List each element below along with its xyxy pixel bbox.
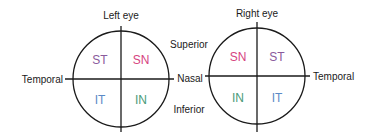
nasal-label: Nasal [177,73,203,84]
superior-label: Superior [170,39,208,50]
left-eye-quadrant-sn: SN [133,53,150,67]
left-eye-quadrant-it: IT [95,93,106,107]
right-eye-title: Right eye [236,8,279,19]
right-eye-diagram: Right eye SN ST IN IT Temporal [205,8,354,132]
right-eye-quadrant-it: IT [272,91,283,105]
right-eye-temporal-label: Temporal [313,71,354,82]
right-eye-quadrant-in: IN [232,91,244,105]
eye-quadrant-diagram: Left eye ST SN IT IN Temporal Superior N… [0,0,373,140]
inferior-label: Inferior [173,104,205,115]
right-eye-quadrant-st: ST [269,50,285,64]
left-eye-quadrant-st: ST [92,53,108,67]
left-eye-temporal-label: Temporal [22,74,63,85]
center-labels: Superior Nasal Inferior [170,39,208,115]
right-eye-quadrant-sn: SN [230,50,247,64]
left-eye-title: Left eye [103,10,139,21]
left-eye-diagram: Left eye ST SN IT IN Temporal [22,10,174,132]
left-eye-quadrant-in: IN [135,93,147,107]
